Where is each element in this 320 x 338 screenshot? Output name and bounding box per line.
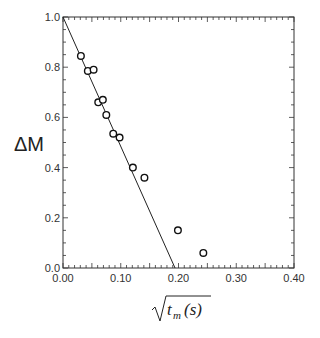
x-tick-label: 0.10 [110, 272, 131, 284]
data-point [90, 66, 97, 73]
scatter-chart: 0.000.100.200.300.400.00.20.40.60.81.0 Δ… [0, 0, 320, 338]
data-point [103, 112, 110, 119]
y-tick-label: 0.8 [45, 61, 60, 73]
x-axis-label-sub: m [173, 309, 181, 321]
data-point [175, 227, 182, 234]
data-point [116, 134, 123, 141]
x-tick-label: 0.40 [283, 272, 304, 284]
data-point [141, 174, 148, 181]
x-tick-label: 0.30 [226, 272, 247, 284]
y-tick-label: 0.4 [45, 162, 60, 174]
x-axis-label: t m (s) [152, 296, 211, 321]
x-axis-label-unit: (s) [184, 300, 202, 319]
y-tick-label: 0.6 [45, 111, 60, 123]
y-tick-label: 0.0 [45, 262, 60, 274]
y-axis-label: ΔM [14, 133, 44, 155]
y-tick-label: 0.2 [45, 212, 60, 224]
data-point [200, 250, 207, 257]
x-tick-label: 0.20 [168, 272, 189, 284]
data-point [78, 53, 85, 60]
data-point [110, 130, 117, 137]
data-point [130, 164, 137, 171]
data-point [100, 97, 107, 104]
y-tick-label: 1.0 [45, 11, 60, 23]
x-axis-label-radical [152, 296, 211, 321]
